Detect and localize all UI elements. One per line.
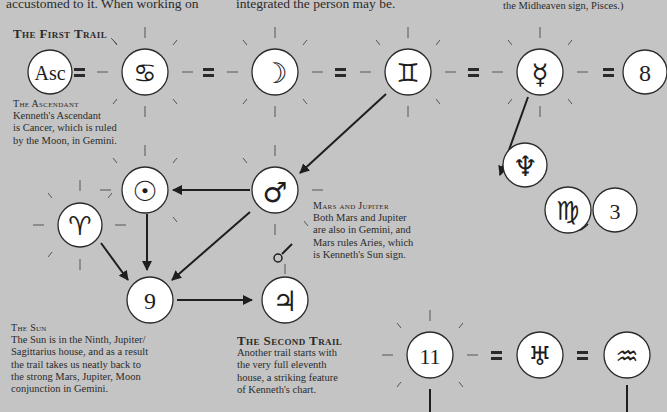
neptune-icon: ♆ (512, 150, 537, 183)
aquarius-icon: ♒ (615, 341, 638, 371)
mercury-icon: ☿ (531, 58, 548, 91)
moon-icon: ☽ (262, 57, 287, 90)
cancer-icon: ♋ (133, 58, 156, 88)
aries-icon: ♈ (68, 211, 91, 241)
house-3-label: 3 (610, 199, 621, 224)
house-9-label: 9 (144, 288, 156, 314)
uranus-icon: ♅ (528, 341, 551, 371)
house-11-label: 11 (419, 344, 440, 369)
connector-knob (274, 254, 282, 262)
gemini-icon: ♊ (396, 58, 419, 88)
ray-marks (33, 27, 588, 387)
house-8-label: 8 (639, 60, 651, 86)
mars-icon: ♂ (262, 176, 287, 209)
sun-icon: ☉ (132, 175, 157, 208)
virgo-icon: ♍ (556, 196, 579, 226)
jupiter-icon: ♃ (272, 285, 297, 318)
astrology-trail-diagram: Asc ♋ ☽ ♊ ☿ 8 ☉ ♂ ♈ 9 ♃ ♆ ♍ 3 11 ♅ ♒ (0, 0, 667, 412)
ascendant-label: Asc (34, 62, 65, 84)
